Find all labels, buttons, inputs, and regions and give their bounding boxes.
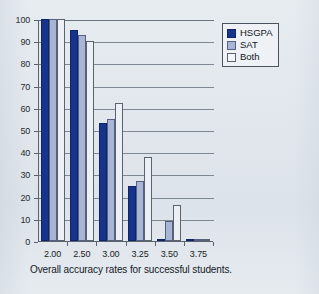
legend-label: HSGPA: [240, 28, 273, 38]
x-tick-mark: [126, 242, 127, 246]
bar-chart: 0102030405060708090100 2.002.503.003.253…: [0, 0, 319, 294]
bar[interactable]: [165, 221, 173, 241]
y-tick-label: 70: [4, 83, 30, 92]
legend-swatch-icon: [227, 29, 236, 38]
plot-area: [38, 20, 213, 242]
bar[interactable]: [78, 35, 86, 241]
bar[interactable]: [49, 19, 57, 241]
bar[interactable]: [202, 239, 210, 241]
legend-item[interactable]: HSGPA: [227, 27, 273, 39]
bar[interactable]: [136, 181, 144, 241]
bar[interactable]: [128, 186, 136, 242]
y-tick-label: 0: [4, 238, 30, 247]
x-tick-mark: [213, 242, 214, 246]
bar[interactable]: [107, 119, 115, 241]
bar[interactable]: [86, 41, 94, 241]
bar[interactable]: [57, 19, 65, 241]
y-tick-mark: [34, 242, 38, 243]
y-tick-label: 90: [4, 38, 30, 47]
legend-item[interactable]: SAT: [227, 39, 273, 51]
bar-group: [157, 19, 181, 241]
legend-label: Both: [240, 52, 260, 62]
legend-swatch-icon: [227, 41, 236, 50]
y-tick-label: 30: [4, 171, 30, 180]
bar-group: [128, 19, 152, 241]
x-tick-mark: [96, 242, 97, 246]
legend-swatch-icon: [227, 53, 236, 62]
x-tick-mark: [67, 242, 68, 246]
x-tick-label: 3.75: [181, 249, 215, 259]
bar-group: [41, 19, 65, 241]
bar[interactable]: [186, 239, 194, 241]
chart-legend: HSGPASATBoth: [222, 23, 279, 67]
bar[interactable]: [41, 19, 49, 241]
x-tick-mark: [155, 242, 156, 246]
y-tick-label: 20: [4, 194, 30, 203]
x-tick-mark: [184, 242, 185, 246]
y-tick-label: 100: [4, 16, 30, 25]
y-tick-label: 60: [4, 105, 30, 114]
bar[interactable]: [70, 30, 78, 241]
chart-page: 0102030405060708090100 2.002.503.003.253…: [0, 0, 319, 294]
bar[interactable]: [144, 157, 152, 241]
y-tick-label: 40: [4, 149, 30, 158]
y-tick-label: 80: [4, 60, 30, 69]
legend-label: SAT: [240, 40, 258, 50]
y-tick-label: 10: [4, 216, 30, 225]
bar[interactable]: [157, 239, 165, 241]
y-tick-label: 50: [4, 127, 30, 136]
bar[interactable]: [99, 123, 107, 241]
legend-item[interactable]: Both: [227, 51, 273, 63]
bar[interactable]: [173, 205, 181, 241]
chart-caption: Overall accuracy rates for successful st…: [0, 264, 262, 275]
bar-group: [186, 19, 210, 241]
bar[interactable]: [115, 103, 123, 241]
bar-group: [70, 19, 94, 241]
bar-group: [99, 19, 123, 241]
bar[interactable]: [194, 239, 202, 241]
